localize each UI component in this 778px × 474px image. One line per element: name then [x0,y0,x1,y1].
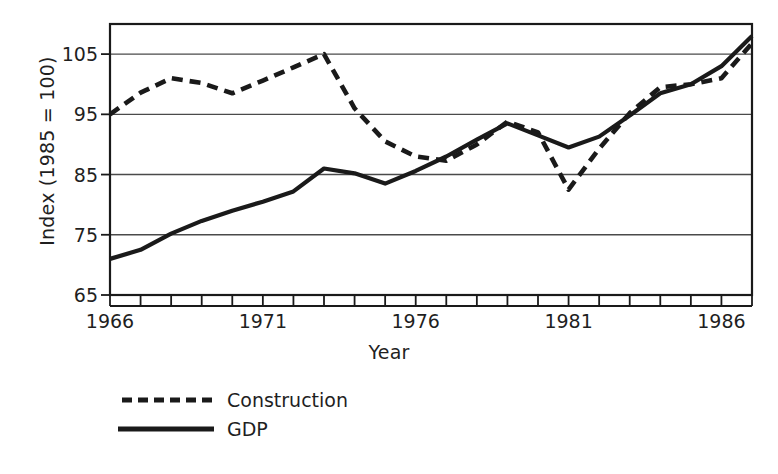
x-tick-label: 1971 [239,310,287,332]
x-tick-label: 1966 [86,310,134,332]
x-axis-ticks [110,295,752,306]
plot-border [110,24,752,295]
legend-label-construction: Construction [227,389,348,411]
chart-legend: Construction GDP [118,385,518,443]
data-series [110,36,752,259]
gridlines [110,54,752,235]
y-tick-label: 85 [40,164,98,186]
legend-swatch-dashed-line [118,393,214,407]
legend-item-construction: Construction [118,385,518,414]
x-tick-label: 1981 [544,310,592,332]
legend-label-gdp: GDP [227,418,268,440]
y-axis-ticks [101,54,110,295]
y-tick-label: 75 [40,224,98,246]
legend-item-gdp: GDP [118,414,518,443]
x-tick-label: 1986 [697,310,745,332]
series-line-gdp [110,36,752,259]
series-line-construction [110,43,752,189]
y-tick-label: 65 [40,284,98,306]
x-tick-label: 1976 [392,310,440,332]
chart-figure: Index (1985 = 100) Year 65758595105 1966… [0,0,778,474]
legend-swatch-solid-line [118,422,214,436]
y-tick-label: 105 [40,43,98,65]
y-tick-label: 95 [40,103,98,125]
